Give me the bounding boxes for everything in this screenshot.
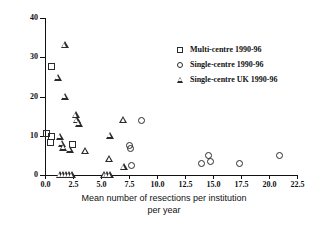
y-tick: 20 <box>40 97 45 98</box>
x-tick-label: 22.5 <box>291 180 305 189</box>
x-tick-label: 2.5 <box>69 180 79 189</box>
legend-item-label: Multi-centre 1990-96 <box>188 45 262 54</box>
x-tick: 0.0 <box>45 175 46 179</box>
x-tick: 12.5 <box>185 175 186 179</box>
legend-item-label: Single-centre 1990-96 <box>188 60 263 69</box>
x-tick: 15.0 <box>213 175 214 179</box>
x-axis-title: Mean number of resections per institutio… <box>24 192 304 216</box>
x-axis-title-line1: Mean number of resections per institutio… <box>81 193 246 203</box>
triangle-marker-icon <box>176 75 188 85</box>
x-tick-label: 0.0 <box>41 180 51 189</box>
x-tick: 20.0 <box>269 175 270 179</box>
data-point-triangle <box>105 155 113 162</box>
square-marker-icon <box>176 45 188 55</box>
y-tick: 30 <box>40 57 45 58</box>
legend-item-triangle: Single-centre UK 1990-96 <box>176 72 277 87</box>
data-point-triangle <box>81 147 89 154</box>
x-tick-label: 20.0 <box>263 180 277 189</box>
x-tick-label: 15.0 <box>207 180 221 189</box>
data-point-triangle <box>106 171 114 178</box>
y-tick-label: 30 <box>30 52 38 61</box>
chart-legend: Multi-centre 1990-96Single-centre 1990-9… <box>176 42 277 87</box>
data-point-triangle <box>120 163 128 170</box>
data-point-triangle <box>54 74 62 81</box>
data-point-triangle <box>61 93 69 100</box>
y-tick-label: 10 <box>30 131 38 140</box>
legend-item-label: Single-centre UK 1990-96 <box>188 75 277 84</box>
data-point-circle <box>128 162 135 169</box>
data-point-triangle <box>106 132 114 139</box>
data-point-triangle <box>66 146 74 153</box>
y-axis-line <box>45 18 46 175</box>
data-point-circle <box>276 152 283 159</box>
x-tick-label: 17.5 <box>235 180 249 189</box>
data-point-circle <box>198 160 205 167</box>
x-axis-line <box>45 175 297 176</box>
x-tick-label: 7.5 <box>125 180 135 189</box>
x-tick-label: 5.0 <box>97 180 107 189</box>
y-tick-label: 20 <box>30 92 38 101</box>
data-point-triangle <box>75 120 83 127</box>
data-point-circle <box>138 117 145 124</box>
legend-item-circle: Single-centre 1990-96 <box>176 57 277 72</box>
data-point-circle <box>236 160 243 167</box>
data-point-circle <box>127 145 134 152</box>
x-tick: 17.5 <box>241 175 242 179</box>
x-tick: 22.5 <box>297 175 298 179</box>
legend-item-square: Multi-centre 1990-96 <box>176 42 277 57</box>
x-tick-label: 12.5 <box>179 180 193 189</box>
y-tick-label: 40 <box>30 13 38 22</box>
data-point-triangle <box>119 116 127 123</box>
x-tick: 7.5 <box>129 175 130 179</box>
scatter-chart-figure: Mortality (%) 010203040 0.02.55.07.510.0… <box>0 0 322 227</box>
y-tick-label: 0 <box>34 170 38 179</box>
data-point-triangle <box>61 41 69 48</box>
data-point-circle <box>207 158 214 165</box>
data-point-square <box>47 139 54 146</box>
x-tick-label: 10.0 <box>151 180 165 189</box>
circle-marker-icon <box>176 60 188 70</box>
data-point-square <box>48 63 55 70</box>
data-point-triangle <box>56 133 64 140</box>
x-axis-title-line2: per year <box>24 204 304 216</box>
y-tick: 40 <box>40 18 45 19</box>
x-tick: 10.0 <box>157 175 158 179</box>
data-point-triangle <box>68 171 76 178</box>
